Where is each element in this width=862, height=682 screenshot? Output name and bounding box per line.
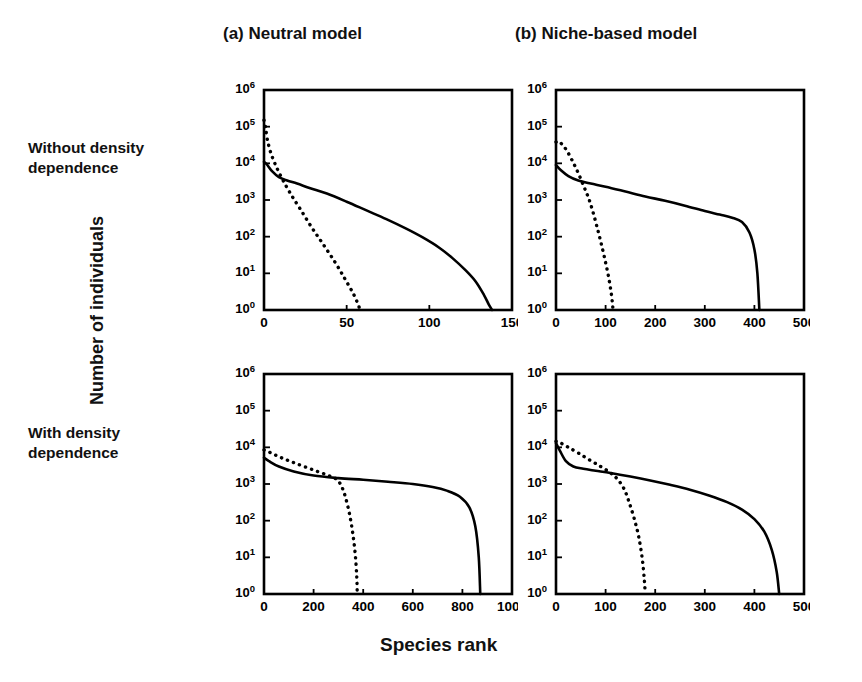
- y-tick-label: 106: [527, 363, 547, 381]
- x-tick-label: 400: [352, 599, 375, 614]
- column-header-b: (b) Niche-based model: [515, 24, 697, 44]
- column-header-a: (a) Neutral model: [223, 24, 362, 44]
- y-tick-label: 100: [527, 583, 547, 601]
- x-tick-label: 100: [418, 315, 441, 330]
- x-tick-label: 100: [594, 315, 617, 330]
- y-tick-label: 100: [527, 299, 547, 317]
- plot-frame: [556, 374, 804, 594]
- curve-solid: [264, 162, 492, 310]
- row-label-without-density-dependence: Without density dependence: [28, 138, 203, 178]
- x-tick-label: 400: [743, 315, 766, 330]
- y-tick-label: 102: [527, 225, 547, 243]
- figure-root: (a) Neutral model (b) Niche-based model …: [0, 0, 862, 682]
- plot-frame: [556, 90, 804, 310]
- chart-svg-panel-b: 1001011021031041051060100200300400500: [500, 78, 810, 336]
- curve-dotted: [264, 120, 360, 310]
- x-tick-label: 300: [694, 599, 717, 614]
- x-tick-label: 500: [793, 315, 810, 330]
- x-tick-label: 0: [552, 315, 560, 330]
- plot-frame: [264, 374, 512, 594]
- row-label-with-density-dependence: With density dependence: [28, 423, 203, 463]
- y-tick-label: 105: [235, 115, 255, 133]
- y-tick-label: 104: [235, 152, 255, 170]
- x-tick-label: 800: [451, 599, 474, 614]
- y-tick-label: 102: [235, 225, 255, 243]
- chart-svg-panel-d: 1001011021031041051060100200300400500: [500, 362, 810, 620]
- y-axis-title: Number of individuals: [87, 146, 108, 476]
- chart-panel-c: 10010110210310410510602004006008001000: [208, 362, 518, 620]
- x-tick-label: 200: [302, 599, 325, 614]
- chart-panel-b: 1001011021031041051060100200300400500: [500, 78, 810, 336]
- y-tick-label: 103: [235, 189, 255, 207]
- y-tick-label: 103: [235, 473, 255, 491]
- y-tick-label: 101: [527, 262, 547, 280]
- x-axis-title: Species rank: [380, 634, 497, 656]
- chart-svg-panel-c: 10010110210310410510602004006008001000: [208, 362, 518, 620]
- curve-solid: [556, 443, 779, 594]
- y-tick-label: 104: [527, 436, 547, 454]
- curve-dotted: [556, 141, 613, 310]
- y-tick-label: 104: [235, 436, 255, 454]
- y-tick-label: 106: [235, 363, 255, 381]
- y-tick-label: 103: [527, 473, 547, 491]
- chart-svg-panel-a: 100101102103104105106050100150: [208, 78, 518, 336]
- x-tick-label: 100: [594, 599, 617, 614]
- chart-panel-a: 100101102103104105106050100150: [208, 78, 518, 336]
- x-tick-label: 600: [402, 599, 425, 614]
- x-tick-label: 500: [793, 599, 810, 614]
- y-tick-label: 105: [235, 399, 255, 417]
- curve-solid: [264, 458, 480, 594]
- plot-frame: [264, 90, 512, 310]
- x-tick-label: 400: [743, 599, 766, 614]
- curve-solid: [556, 165, 759, 310]
- curve-dotted: [264, 450, 357, 594]
- y-tick-label: 105: [527, 115, 547, 133]
- y-tick-label: 106: [235, 79, 255, 97]
- chart-panel-d: 1001011021031041051060100200300400500: [500, 362, 810, 620]
- y-tick-label: 102: [527, 509, 547, 527]
- x-tick-label: 200: [644, 599, 667, 614]
- y-tick-label: 101: [235, 546, 255, 564]
- y-tick-label: 106: [527, 79, 547, 97]
- y-tick-label: 101: [235, 262, 255, 280]
- y-tick-label: 100: [235, 583, 255, 601]
- x-tick-label: 200: [644, 315, 667, 330]
- y-tick-label: 104: [527, 152, 547, 170]
- y-tick-label: 103: [527, 189, 547, 207]
- x-tick-label: 0: [260, 599, 268, 614]
- y-tick-label: 101: [527, 546, 547, 564]
- x-tick-label: 50: [339, 315, 354, 330]
- y-tick-label: 105: [527, 399, 547, 417]
- x-tick-label: 300: [694, 315, 717, 330]
- y-tick-label: 102: [235, 509, 255, 527]
- x-tick-label: 0: [260, 315, 268, 330]
- y-tick-label: 100: [235, 299, 255, 317]
- x-tick-label: 0: [552, 599, 560, 614]
